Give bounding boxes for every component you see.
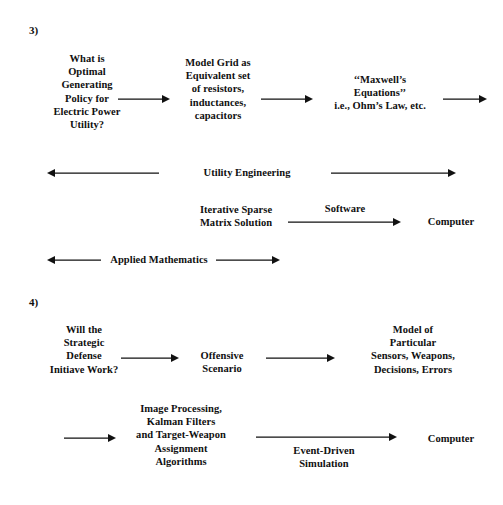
arrow-utility-engineering-left (47, 167, 159, 179)
question-strategic-defense-initiative: Will the Strategic Defense Initiave Work… (32, 323, 136, 376)
maxwells-equations: ‘‘Maxwell’s Equations’’ i.e., Ohm’s Law,… (318, 73, 442, 113)
arrow-simulation-to-computer (256, 431, 397, 443)
image-processing-algorithms: Image Processing, Kalman Filters and Tar… (118, 402, 244, 468)
arrow-applied-math-right (216, 254, 280, 266)
utility-engineering: Utility Engineering (187, 166, 307, 179)
offensive-scenario: Offensive Scenario (185, 349, 259, 375)
iterative-sparse-matrix-solution: Iterative Sparse Matrix Solution (180, 203, 292, 229)
diagram-canvas: 3) What is Optimal Generating Policy for… (0, 0, 503, 505)
arrow-applied-math-left (47, 254, 101, 266)
computer-section-3: Computer (418, 215, 484, 228)
computer-section-4: Computer (418, 432, 484, 445)
section-number-4: 4) (29, 296, 38, 309)
arrow-into-image-processing (64, 432, 116, 444)
section-number-3: 3) (29, 24, 38, 37)
arrow-maxwell-to-offpage (443, 93, 487, 105)
model-of-particular-sensors: Model of Particular Sensors, Weapons, De… (343, 323, 483, 376)
event-driven-simulation: Event-Driven Simulation (281, 444, 367, 470)
applied-mathematics: Applied Mathematics (104, 253, 214, 266)
model-grid-equivalent-circuit: Model Grid as Equivalent set of resistor… (162, 56, 274, 122)
arrow-software-to-computer (288, 216, 401, 228)
question-electric-power-utility: What is Optimal Generating Policy for El… (28, 52, 146, 131)
arrow-utility-engineering-right (331, 167, 456, 179)
arrow-offensive-scenario-to-model (266, 352, 335, 364)
software: Software (314, 202, 376, 215)
